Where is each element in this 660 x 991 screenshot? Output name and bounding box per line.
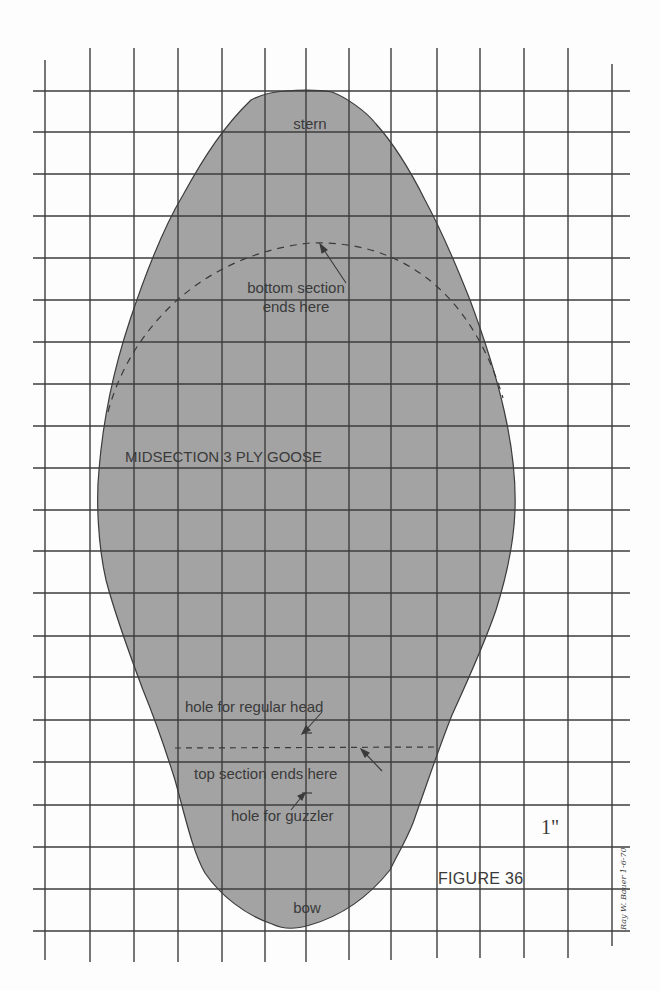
hole-guzzler-label: hole for guzzler [231,807,334,824]
bottom-section-label: bottom section [247,279,345,296]
hole-regular-head-label: hole for regular head [185,698,323,715]
scale-label: 1" [541,816,559,838]
signature: Ray W. Bauer 1-6-70 [619,847,628,931]
stern-label: stern [293,115,326,132]
pattern-diagram: stern bottom section ends here MIDSECTIO… [0,0,660,991]
bow-label: bow [293,899,321,916]
top-section-label: top section ends here [194,765,337,782]
part-label: MIDSECTION 3 PLY GOOSE [125,448,322,465]
bottom-section-label-line2: ends here [263,298,330,315]
figure-title: FIGURE 36 [438,870,523,887]
